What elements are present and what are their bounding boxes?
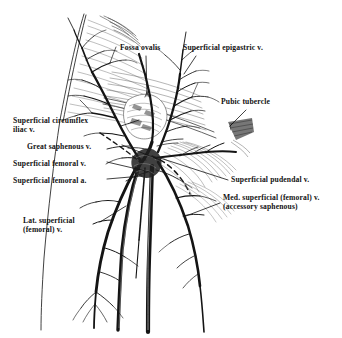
label-lateral-superficial-femoral-vein: Lat. superficial (femoral) v. (23, 216, 75, 234)
anatomical-figure: Fossa ovalis Superficial epigastric v. P… (0, 0, 342, 338)
anatomy-illustration (0, 0, 342, 338)
fossa-ovalis-region (124, 94, 167, 139)
label-superficial-femoral-vein: Superficial femoral v. (13, 159, 86, 168)
figure-background (0, 0, 342, 338)
label-superficial-epigastric-vein: Superficial epigastric v. (183, 43, 263, 52)
label-superficial-femoral-artery: Superficial femoral a. (13, 176, 87, 185)
label-superficial-circumflex-iliac-vein: Superficial circumflex iliac v. (13, 116, 88, 134)
label-pubic-tubercle: Pubic tubercle (221, 97, 270, 106)
label-superficial-pudendal-vein: Superficial pudendal v. (231, 175, 309, 184)
label-medial-superficial-femoral-vein: Med. superficial (femoral) v. (accessory… (223, 193, 320, 211)
label-fossa-ovalis: Fossa ovalis (120, 43, 160, 52)
label-great-saphenous-vein: Great saphenous v. (27, 142, 91, 151)
